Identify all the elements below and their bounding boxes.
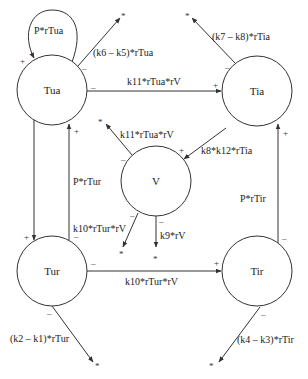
sign-v-lower-left-minus: – — [129, 210, 135, 220]
sink-tua: * — [121, 11, 126, 21]
label-k9-rv: k9*rV — [160, 230, 186, 241]
label-k11-rtua-rv-top: k11*rTua*rV — [127, 76, 181, 87]
label-p-rtua: P*rTua — [34, 25, 64, 36]
sign-tur-sink-minus: – — [46, 308, 52, 318]
sign-tir-tia-minus: – — [281, 233, 287, 243]
sink-tur: * — [95, 361, 100, 371]
label-k8-k12-rtia: k8*k12*rTia — [201, 145, 253, 156]
sign-v-down-minus: – — [158, 216, 164, 226]
edge-tua-self-loop — [28, 10, 77, 62]
label-k4-k3: (k4 – k3)*rTir — [237, 334, 295, 346]
sign-tia-v-plus: + — [179, 145, 184, 155]
sign-tur-tir-minus: – — [90, 258, 96, 268]
sign-tua-self-plus: + — [20, 56, 25, 66]
edge-tua-sink — [78, 18, 120, 66]
node-tua: Tua — [17, 55, 87, 125]
sign-tur-tir-plus: + — [214, 258, 219, 268]
node-v: V — [121, 146, 191, 216]
sign-tua-tia-plus: + — [213, 80, 218, 90]
sign-tir-tia-plus: + — [283, 128, 288, 138]
node-v-label: V — [152, 175, 160, 187]
sink-v-upper: * — [98, 117, 103, 127]
sign-tua-tur-plus: + — [24, 232, 29, 242]
node-tir: Tir — [222, 236, 292, 306]
node-tua-label: Tua — [44, 84, 61, 96]
compartment-flow-diagram: P*rTua + * (k6 – k5)*rTua – * (k7 – k8)*… — [0, 0, 308, 379]
sink-tia: * — [185, 11, 190, 21]
sink-v-lower-left: * — [119, 249, 124, 259]
sign-tir-sink-minus: – — [260, 309, 266, 319]
label-k10-rtur-rv-bottom: k10*rTur*rV — [125, 276, 179, 287]
node-tur: Tur — [17, 236, 87, 306]
node-tur-label: Tur — [44, 265, 60, 277]
sign-tua-tia-minus: – — [90, 82, 96, 92]
label-p-rtir: P*rTir — [240, 193, 266, 204]
label-k6-k5: (k6 – k5)*rTua — [93, 47, 154, 59]
node-tir-label: Tir — [250, 265, 263, 277]
label-k2-k1: (k2 – k1)*rTur — [10, 333, 70, 345]
label-k7-k8: (k7 – k8)*rTia — [212, 31, 271, 43]
label-k10-rtur-rv-v: k10*rTur*rV — [73, 223, 127, 234]
node-tia: Tia — [222, 56, 292, 126]
label-p-rtur: P*rTur — [73, 176, 102, 187]
label-k11-rtua-rv-v: k11*rTua*rV — [120, 129, 174, 140]
sign-v-upper-minus: – — [120, 154, 126, 164]
sink-v-down: * — [153, 254, 158, 264]
sign-tur-tua-plus: + — [74, 126, 79, 136]
sink-tir: * — [209, 361, 214, 371]
node-tia-label: Tia — [250, 85, 264, 97]
